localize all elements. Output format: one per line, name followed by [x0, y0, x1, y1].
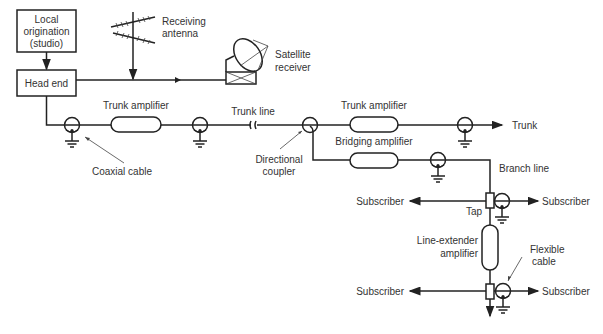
local-origination-box: Local origination (studio): [17, 10, 76, 52]
cable-tv-diagram: Local origination (studio) Head end Rece…: [0, 0, 603, 334]
trunk-amplifier-1: [111, 117, 161, 132]
subscriber-label: Subscriber: [542, 196, 590, 207]
coax-ground-icon: [496, 284, 511, 314]
svg-text:amplifier: amplifier: [440, 248, 478, 259]
line-extender-amplifier: [482, 225, 498, 270]
satellite-dish-icon: [226, 33, 268, 84]
coax-ground-icon: [458, 118, 473, 148]
svg-text:(studio): (studio): [30, 38, 63, 49]
svg-text:Trunk amplifier: Trunk amplifier: [341, 100, 407, 111]
coax-ground-icon: [431, 153, 446, 183]
svg-text:origination: origination: [23, 26, 69, 37]
subscriber-label: Subscriber: [356, 196, 404, 207]
subscriber-label: Subscriber: [542, 286, 590, 297]
svg-text:Head end: Head end: [25, 78, 68, 89]
svg-text:Trunk amplifier: Trunk amplifier: [103, 100, 169, 111]
tap-label: Tap: [466, 206, 483, 217]
trunk-label: Trunk: [512, 120, 538, 131]
bridging-amplifier: [350, 153, 398, 168]
branch-line-label: Branch line: [499, 163, 549, 174]
trunk-amplifier-2: [350, 117, 398, 132]
svg-text:Local: Local: [35, 14, 59, 25]
line-extender-label: Line-extender: [417, 235, 479, 246]
receiving-antenna-icon: [111, 12, 155, 79]
svg-text:receiver: receiver: [275, 62, 311, 73]
svg-text:Bridging amplifier: Bridging amplifier: [335, 136, 413, 147]
svg-text:coupler: coupler: [263, 166, 296, 177]
svg-text:antenna: antenna: [162, 28, 199, 39]
head-end-box: Head end: [17, 70, 76, 96]
directional-coupler-label: Directional: [255, 154, 302, 165]
coax-pointer: [85, 137, 124, 163]
satellite-receiver-label: Satellite: [275, 49, 311, 60]
subscriber-label: Subscriber: [356, 286, 404, 297]
coax-ground-icon: [65, 118, 80, 148]
coax-ground-icon: [193, 118, 208, 148]
tap-1: [486, 193, 494, 208]
coaxial-cable-label: Coaxial cable: [92, 166, 152, 177]
flexible-cable-label: Flexible: [530, 244, 565, 255]
svg-text:cable: cable: [532, 256, 556, 267]
trunk-line-label: Trunk line: [231, 106, 275, 117]
receiving-antenna-label: Receiving: [162, 16, 206, 27]
coax-ground-icon: [495, 194, 510, 224]
tap-2: [486, 284, 494, 299]
